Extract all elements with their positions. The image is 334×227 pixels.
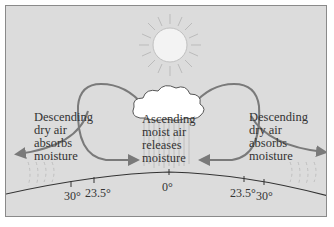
left-descending-label: Descendingdry airabsorbsmoisture xyxy=(34,111,93,163)
hadley-cell-diagram: Descendingdry airabsorbsmoisture Ascendi… xyxy=(5,5,327,217)
tick-label-23-5-north: 23.5° xyxy=(230,186,256,201)
tick-label-equator: 0° xyxy=(162,180,173,195)
tick-label-23-5-south: 23.5° xyxy=(85,186,111,201)
tick-label-30-north: 30° xyxy=(256,189,273,204)
sun-icon xyxy=(139,14,201,76)
center-ascending-label: Ascendingmoist airreleasesmoisture xyxy=(142,113,195,165)
right-descending-label: Descendingdry airabsorbsmoisture xyxy=(249,111,308,163)
tick-label-30-south: 30° xyxy=(64,189,81,204)
